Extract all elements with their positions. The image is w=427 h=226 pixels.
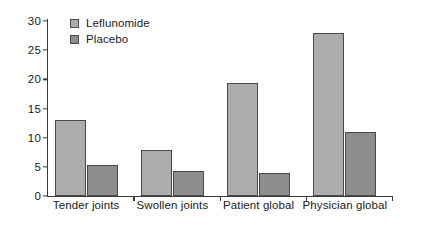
chart-legend: Leflunomide Placebo	[70, 16, 150, 48]
bar-group	[306, 21, 392, 196]
legend-item-placebo: Placebo	[70, 32, 150, 46]
bar-group	[220, 21, 306, 196]
x-axis-tick-mark	[220, 196, 221, 201]
bar-leflunomide-tender-joints	[55, 120, 86, 196]
bar-placebo-tender-joints	[87, 165, 118, 197]
legend-item-label: Placebo	[86, 33, 128, 45]
x-axis-category-label: Swollen joints	[137, 199, 209, 211]
legend-swatch-icon	[70, 35, 79, 44]
legend-swatch-icon	[70, 19, 79, 28]
x-axis-category-label: Tender joints	[53, 199, 120, 211]
bar-leflunomide-swollen-joints	[141, 150, 172, 196]
x-axis-category-label: Patient global	[223, 199, 294, 211]
legend-item-leflunomide: Leflunomide	[70, 16, 150, 30]
bar-placebo-swollen-joints	[173, 171, 204, 196]
bar-leflunomide-patient-global	[227, 83, 258, 196]
bar-chart: 051015202530 Tender jointsSwollen joints…	[0, 0, 427, 226]
x-axis-tick-mark	[133, 196, 134, 201]
bar-placebo-physician-global	[345, 132, 376, 196]
bar-placebo-patient-global	[259, 173, 290, 196]
legend-item-label: Leflunomide	[86, 17, 150, 29]
x-axis-tick-mark	[392, 196, 393, 201]
x-axis-category-label: Physician global	[303, 199, 388, 211]
bar-leflunomide-physician-global	[313, 33, 344, 196]
